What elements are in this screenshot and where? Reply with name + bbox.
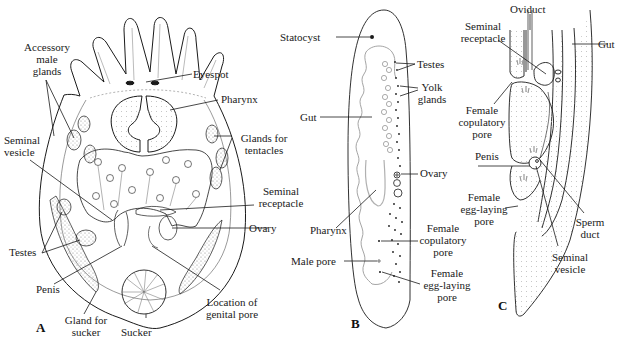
panel-letter-a: A: [36, 320, 45, 336]
label-seminal-receptacle-a: Seminal receptacle: [254, 185, 308, 209]
label-location-of-genital-pore: Location of genital pore: [196, 296, 268, 320]
label-statocyst: Statocyst: [280, 31, 320, 43]
label-ovary-b: Ovary: [420, 167, 448, 179]
label-gland-for-sucker: Gland for sucker: [58, 314, 114, 338]
label-eyespot: Eyespot: [193, 68, 228, 80]
label-gut-b: Gut: [300, 111, 317, 123]
diagram-drawing: [0, 0, 620, 340]
label-female-egg-laying-pore-b: Female egg-laying pore: [418, 267, 476, 303]
figure-anatomy-diagram: Accessory male glands Eyespot Pharynx Se…: [0, 0, 620, 340]
panel-b-drawing: [320, 10, 420, 328]
label-gut-c: Gut: [598, 38, 615, 50]
panel-letter-c: C: [498, 298, 507, 314]
label-sucker: Sucker: [121, 326, 152, 338]
label-testes-b: Testes: [417, 58, 444, 70]
label-female-egg-laying-pore-c: Female egg-laying pore: [458, 191, 510, 227]
label-yolk-glands: Yolk glands: [414, 81, 450, 105]
label-pharynx-b: Pharynx: [310, 224, 347, 236]
label-testes-a: Testes: [9, 246, 36, 258]
label-female-copulatory-pore-c: Female copulatory pore: [456, 104, 508, 140]
panel-letter-b: B: [351, 316, 360, 332]
label-seminal-receptacle-c: Seminal receptacle: [458, 20, 508, 44]
label-accessory-male-glands: Accessory male glands: [12, 41, 82, 77]
label-seminal-vesicle-c: Seminal vesicle: [548, 251, 592, 275]
label-penis-c: Penis: [475, 150, 499, 162]
label-oviduct: Oviduct: [510, 3, 545, 15]
label-penis-a: Penis: [36, 283, 60, 295]
label-glands-for-tentacles: Glands for tentacles: [232, 132, 296, 156]
label-female-copulatory-pore-b: Female copulatory pore: [414, 222, 472, 258]
label-sperm-duct: Sperm duct: [570, 216, 610, 240]
label-pharynx-a: Pharynx: [221, 93, 258, 105]
label-ovary-a: Ovary: [249, 222, 277, 234]
label-seminal-vesicle-a: Seminal vesicle: [4, 134, 40, 158]
label-male-pore: Male pore: [291, 255, 336, 267]
